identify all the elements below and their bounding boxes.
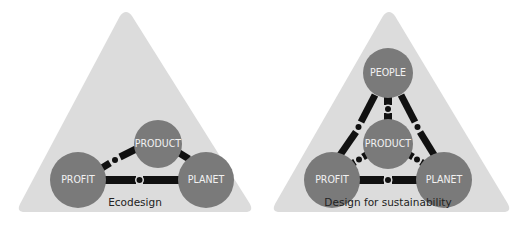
node-people: PEOPLE (363, 48, 413, 98)
sustainability-caption: Design for sustainability (324, 196, 451, 208)
node-profit: PROFIT (50, 152, 106, 208)
node-planet: PLANET (178, 152, 234, 208)
ecodesign-caption: Ecodesign (108, 196, 162, 208)
svg-text:PRODUCT: PRODUCT (365, 137, 411, 149)
connector-profit-planet (96, 176, 183, 185)
connector-people-product (384, 96, 393, 121)
node-product: PRODUCT (134, 120, 182, 168)
node-product: PRODUCT (363, 119, 413, 169)
connector-profit-planet (350, 176, 426, 185)
svg-text:PLANET: PLANET (426, 173, 463, 185)
diagram-canvas: PRODUCT PROFIT PLANET Ecodesign (0, 0, 522, 226)
svg-text:PLANET: PLANET (188, 173, 225, 185)
svg-text:PRODUCT: PRODUCT (135, 137, 181, 149)
ecodesign-diagram: PRODUCT PROFIT PLANET Ecodesign (19, 12, 251, 212)
svg-text:PROFIT: PROFIT (315, 173, 349, 185)
svg-text:PROFIT: PROFIT (61, 173, 95, 185)
svg-text:PEOPLE: PEOPLE (370, 66, 406, 78)
sustainability-diagram: PEOPLE PRODUCT PROFIT PLANET Design for … (274, 12, 509, 212)
